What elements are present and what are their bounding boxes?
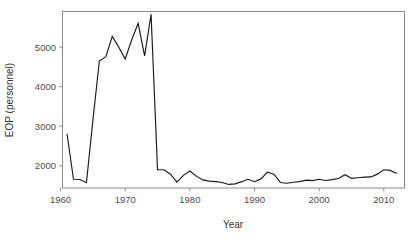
data-series-line — [67, 14, 397, 184]
y-axis-title: EOP (personnel) — [4, 63, 15, 137]
x-tick-label: 2010 — [373, 194, 394, 205]
y-tick-label: 3000 — [35, 121, 56, 132]
y-tick-label: 4000 — [35, 81, 56, 92]
x-tick-label: 1980 — [179, 194, 200, 205]
x-axis-title: Year — [223, 219, 244, 230]
x-tick-label: 1970 — [115, 194, 136, 205]
x-tick-label: 1990 — [244, 194, 265, 205]
x-axis: 196019701980199020002010 — [50, 188, 394, 205]
y-tick-label: 2000 — [35, 160, 56, 171]
x-tick-label: 1960 — [50, 194, 71, 205]
y-axis: 2000300040005000 — [35, 42, 63, 172]
line-chart: 2000300040005000 19601970198019902000201… — [0, 0, 418, 240]
chart-figure: 2000300040005000 19601970198019902000201… — [0, 0, 418, 240]
y-tick-label: 5000 — [35, 42, 56, 53]
x-tick-label: 2000 — [309, 194, 330, 205]
